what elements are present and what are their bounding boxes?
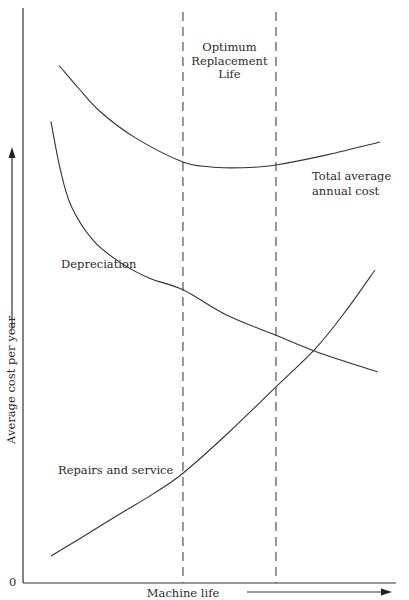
depreciation-curve <box>51 121 378 372</box>
optimum-label-line-2: Replacement <box>191 54 268 68</box>
optimum-label-line-1: Optimum <box>202 40 256 54</box>
total-cost-label-line-1: Total average <box>312 169 391 183</box>
x-axis-arrow-head-icon <box>381 589 392 596</box>
y-axis-label: Average cost per year <box>4 316 18 445</box>
repairs-label: Repairs and service <box>58 463 174 477</box>
x-axis-label-group: Machine life <box>147 586 392 600</box>
replacement-life-chart: 0 Average cost per year Machine life Opt… <box>0 0 409 600</box>
origin-label: 0 <box>9 575 16 589</box>
optimum-label-line-3: Life <box>218 67 241 81</box>
depreciation-label: Depreciation <box>61 257 137 271</box>
x-axis-label: Machine life <box>147 586 220 600</box>
y-axis-label-group: Average cost per year <box>4 147 18 445</box>
y-axis-arrow-head-icon <box>9 147 16 158</box>
total-cost-label-line-2: annual cost <box>312 184 380 198</box>
repairs-and-service-curve <box>51 270 375 556</box>
